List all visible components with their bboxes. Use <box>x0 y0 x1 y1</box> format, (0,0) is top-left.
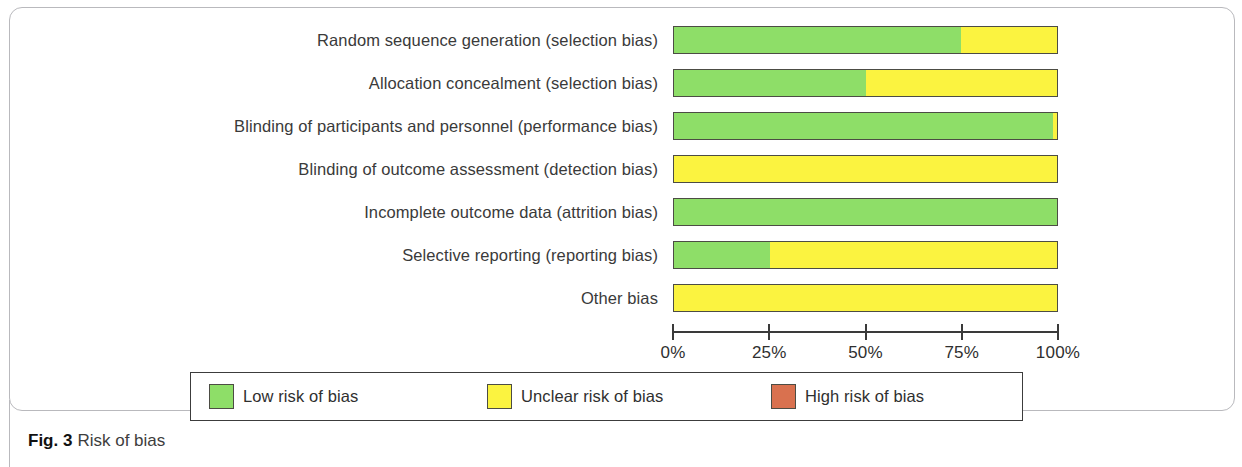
stacked-bar <box>673 155 1058 183</box>
bar-row-label: Blinding of participants and personnel (… <box>234 111 658 141</box>
x-axis-tick <box>961 324 963 340</box>
bar-segment <box>674 156 1057 182</box>
bar-segment <box>674 242 770 268</box>
bar-row-label: Allocation concealment (selection bias) <box>369 68 658 98</box>
bar-segment <box>961 27 1057 53</box>
legend-swatch-unclear-icon <box>487 384 512 409</box>
bar-segment <box>770 242 1057 268</box>
bar-row-label: Other bias <box>581 283 658 313</box>
legend-item-unclear: Unclear risk of bias <box>487 373 663 420</box>
x-axis-tick <box>1057 324 1059 340</box>
bar-rows: Random sequence generation (selection bi… <box>0 25 1242 326</box>
bar-row-label: Blinding of outcome assessment (detectio… <box>298 154 658 184</box>
x-axis-tick-label: 25% <box>752 343 787 363</box>
stacked-bar <box>673 241 1058 269</box>
legend-label-high: High risk of bias <box>805 387 924 406</box>
legend-swatch-low-icon <box>209 384 234 409</box>
bar-row: Allocation concealment (selection bias) <box>0 68 1242 111</box>
chart-legend: Low risk of bias Unclear risk of bias Hi… <box>190 372 1023 421</box>
figure-caption-text: Risk of bias <box>77 431 165 450</box>
legend-label-low: Low risk of bias <box>243 387 358 406</box>
x-axis-tick-label: 100% <box>1036 343 1080 363</box>
risk-of-bias-chart: Random sequence generation (selection bi… <box>0 0 1242 360</box>
x-axis-tick-label: 50% <box>848 343 883 363</box>
legend-item-low: Low risk of bias <box>209 373 358 420</box>
legend-swatch-high-icon <box>771 384 796 409</box>
bar-segment <box>674 27 961 53</box>
x-axis-tick <box>865 324 867 340</box>
bar-row: Blinding of participants and personnel (… <box>0 111 1242 154</box>
bar-row: Blinding of outcome assessment (detectio… <box>0 154 1242 197</box>
x-axis: 0%25%50%75%100% <box>673 331 1058 333</box>
figure-page: Random sequence generation (selection bi… <box>0 0 1242 467</box>
legend-label-unclear: Unclear risk of bias <box>521 387 663 406</box>
figure-caption-number: Fig. 3 <box>28 431 72 450</box>
x-axis-tick <box>768 324 770 340</box>
bar-row: Other bias <box>0 283 1242 326</box>
stacked-bar <box>673 198 1058 226</box>
stacked-bar <box>673 284 1058 312</box>
bar-segment <box>674 199 1057 225</box>
x-axis-tick-label: 75% <box>944 343 979 363</box>
bar-row-label: Random sequence generation (selection bi… <box>317 25 658 55</box>
figure-caption: Fig. 3Risk of bias <box>28 431 165 451</box>
bar-row: Selective reporting (reporting bias) <box>0 240 1242 283</box>
bar-segment <box>1053 113 1057 139</box>
bar-row-label: Selective reporting (reporting bias) <box>402 240 658 270</box>
bar-segment <box>674 285 1057 311</box>
bar-row: Random sequence generation (selection bi… <box>0 25 1242 68</box>
x-axis-tick <box>672 324 674 340</box>
stacked-bar <box>673 69 1058 97</box>
legend-item-high: High risk of bias <box>771 373 924 420</box>
figure-frame-tail <box>9 400 10 467</box>
bar-segment <box>674 113 1053 139</box>
x-axis-tick-label: 0% <box>661 343 686 363</box>
bar-segment <box>674 70 866 96</box>
stacked-bar <box>673 112 1058 140</box>
stacked-bar <box>673 26 1058 54</box>
bar-row: Incomplete outcome data (attrition bias) <box>0 197 1242 240</box>
bar-segment <box>866 70 1058 96</box>
bar-row-label: Incomplete outcome data (attrition bias) <box>364 197 658 227</box>
